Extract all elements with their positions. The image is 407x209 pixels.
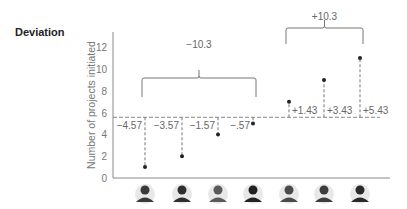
bracket-label: −10.3 (186, 39, 212, 50)
y-tick-label: 10 (96, 64, 108, 75)
avatar-head (320, 186, 329, 195)
avatar-head (285, 186, 294, 195)
y-tick-label: 8 (101, 86, 107, 97)
avatar-head (178, 186, 187, 195)
deviation-label: −1.57 (190, 120, 216, 131)
deviation-label: −4.57 (117, 120, 143, 131)
bracket-label: +10.3 (312, 11, 338, 22)
data-point (216, 132, 220, 136)
data-point (322, 78, 326, 82)
data-point (143, 165, 147, 169)
data-point (358, 56, 362, 60)
deviation-label: +1.43 (292, 105, 318, 116)
bracket (286, 20, 363, 44)
avatar-head (141, 186, 150, 195)
data-point (180, 154, 184, 158)
avatar-head (356, 186, 365, 195)
deviation-label: −3.57 (154, 120, 180, 131)
avatar-head (214, 186, 223, 195)
deviation-label: −.57 (230, 120, 250, 131)
deviation-label: +3.43 (327, 105, 353, 116)
y-tick-label: 4 (101, 129, 107, 140)
data-point (287, 100, 291, 104)
avatar-head (249, 186, 258, 195)
y-tick-label: 12 (96, 42, 108, 53)
deviation-label: +5.43 (363, 105, 389, 116)
deviation-chart: 024681012Number of projects initiated−4.… (0, 0, 407, 209)
y-tick-label: 0 (101, 173, 107, 184)
data-point (251, 122, 255, 126)
y-tick-label: 6 (101, 108, 107, 119)
bracket (142, 70, 256, 97)
y-tick-label: 2 (101, 151, 107, 162)
y-axis-label: Number of projects initiated (85, 41, 97, 169)
